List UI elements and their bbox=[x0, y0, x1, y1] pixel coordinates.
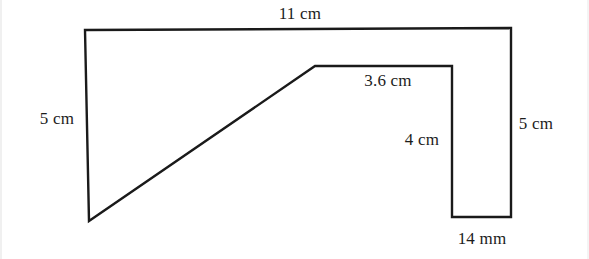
dimension-label-right: 5 cm bbox=[519, 115, 553, 132]
dimension-label-notch-width: 14 mm bbox=[458, 230, 507, 247]
dimension-label-left: 5 cm bbox=[40, 110, 74, 127]
polygon-outline-path bbox=[85, 28, 511, 221]
dimension-label-ledge: 3.6 cm bbox=[364, 72, 411, 89]
dimension-label-top: 11 cm bbox=[279, 5, 321, 22]
dimension-label-notch-height: 4 cm bbox=[405, 131, 439, 148]
geometry-figure: 11 cm 5 cm 3.6 cm 4 cm 5 cm 14 mm bbox=[0, 0, 589, 259]
polygon-outline bbox=[0, 0, 589, 259]
